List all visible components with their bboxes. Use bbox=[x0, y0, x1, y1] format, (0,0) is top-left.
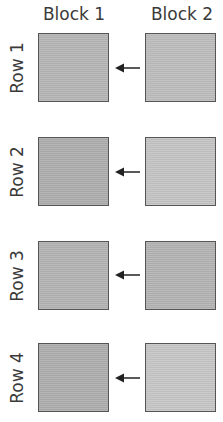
row-label-2: Row 2 bbox=[2, 136, 32, 208]
row3-block2-square bbox=[145, 241, 216, 310]
row-label-4: Row 4 bbox=[2, 342, 32, 414]
row4-block2-square bbox=[145, 343, 216, 412]
column-header-block-2: Block 2 bbox=[137, 4, 223, 24]
left-arrow-icon bbox=[115, 166, 141, 178]
row-label-3: Row 3 bbox=[2, 240, 32, 312]
row3-block1-square bbox=[38, 241, 109, 310]
row4-block1-square bbox=[38, 343, 109, 412]
row2-block2-square bbox=[145, 137, 216, 206]
row-label-1: Row 1 bbox=[2, 32, 32, 104]
row1-block1-square bbox=[38, 33, 109, 102]
column-header-block-1: Block 1 bbox=[29, 4, 119, 24]
left-arrow-icon bbox=[115, 62, 141, 74]
row2-block1-square bbox=[38, 137, 109, 206]
row1-block2-square bbox=[145, 33, 216, 102]
left-arrow-icon bbox=[115, 372, 141, 384]
left-arrow-icon bbox=[115, 269, 141, 281]
